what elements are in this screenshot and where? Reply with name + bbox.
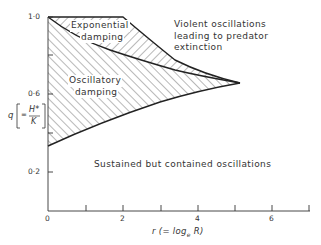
oscillatory-damping-label: Oscillatory damping	[68, 75, 122, 98]
y-axis-label-numerator: H*	[29, 104, 40, 115]
y-axis-label-q: q	[8, 110, 14, 121]
sustained-oscillations-label: Sustained but contained oscillations	[94, 159, 271, 171]
exponential-damping-label: Exponential damping	[70, 20, 130, 43]
phase-diagram	[0, 0, 321, 245]
x-tick-6: 6	[269, 214, 274, 223]
x-tick-4: 4	[195, 214, 200, 223]
y-tick-1-0: 1·0	[28, 12, 40, 21]
y-tick-0-2: 0·2	[28, 167, 40, 176]
y-axis-label-denominator: K	[31, 116, 37, 127]
violent-oscillations-label: Violent oscillations leading to predator…	[174, 19, 268, 54]
y-tick-0-6: 0·6	[28, 89, 40, 98]
x-tick-0: 0	[45, 214, 50, 223]
y-axis-label-eq: =	[21, 110, 27, 121]
x-tick-2: 2	[120, 214, 125, 223]
x-axis-label: r (= loge R)	[152, 226, 204, 240]
